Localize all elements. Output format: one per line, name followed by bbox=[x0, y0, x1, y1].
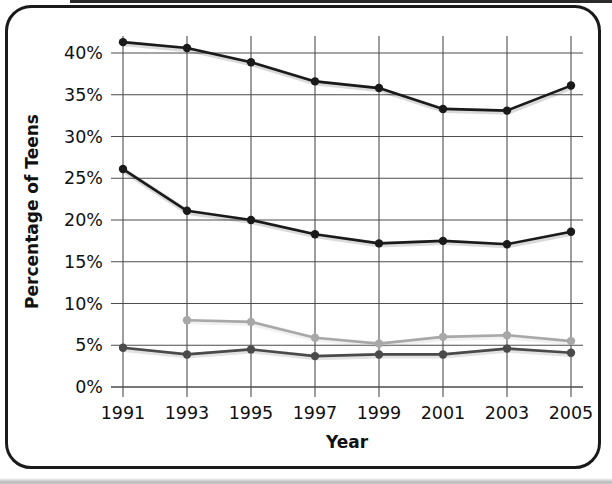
y-tick-label: 20% bbox=[64, 210, 103, 230]
series-marker bbox=[119, 344, 127, 352]
x-tick-label: 1997 bbox=[293, 403, 338, 423]
series-line-ghost bbox=[124, 44, 572, 113]
series-marker bbox=[503, 240, 511, 248]
series-marker bbox=[439, 350, 447, 358]
series-marker bbox=[567, 349, 575, 357]
x-tick-label: 2003 bbox=[485, 403, 530, 423]
series-marker bbox=[119, 38, 127, 46]
x-tick-label: 1999 bbox=[357, 403, 402, 423]
series-marker bbox=[183, 207, 191, 215]
series-marker bbox=[247, 58, 255, 66]
series-marker bbox=[183, 44, 191, 52]
series-line-ghost bbox=[124, 171, 572, 246]
x-tick-label: 1995 bbox=[229, 403, 274, 423]
series-marker bbox=[439, 333, 447, 341]
series-marker bbox=[119, 165, 127, 173]
x-tick-label: 2001 bbox=[421, 403, 466, 423]
series-marker bbox=[439, 105, 447, 113]
y-tick-label: 25% bbox=[64, 168, 103, 188]
series-marker bbox=[247, 345, 255, 353]
series-marker bbox=[503, 106, 511, 114]
chart-tick-labels: 0%5%10%15%20%25%30%35%40%199119931995199… bbox=[64, 43, 593, 423]
series-marker bbox=[311, 77, 319, 85]
y-tick-label: 10% bbox=[64, 294, 103, 314]
y-tick-label: 40% bbox=[64, 43, 103, 63]
series-marker bbox=[311, 352, 319, 360]
series-marker bbox=[375, 339, 383, 347]
series-marker bbox=[503, 344, 511, 352]
series-marker bbox=[183, 350, 191, 358]
x-tick-label: 1991 bbox=[101, 403, 146, 423]
series-marker bbox=[247, 216, 255, 224]
y-tick-label: 5% bbox=[75, 335, 103, 355]
series-marker bbox=[247, 318, 255, 326]
y-tick-label: 0% bbox=[75, 377, 103, 397]
y-tick-label: 30% bbox=[64, 127, 103, 147]
series-marker bbox=[311, 334, 319, 342]
series-marker bbox=[183, 316, 191, 324]
series-marker bbox=[375, 350, 383, 358]
series-line bbox=[123, 169, 571, 244]
series-marker bbox=[375, 84, 383, 92]
series-marker bbox=[375, 239, 383, 247]
series-marker bbox=[439, 237, 447, 245]
scan-edge-bottom bbox=[0, 478, 612, 484]
series-marker bbox=[567, 337, 575, 345]
series-marker bbox=[567, 81, 575, 89]
series-marker bbox=[311, 230, 319, 238]
x-tick-label: 1993 bbox=[165, 403, 210, 423]
series-marker bbox=[567, 227, 575, 235]
line-chart: 0%5%10%15%20%25%30%35%40%199119931995199… bbox=[0, 0, 612, 484]
y-tick-label: 35% bbox=[64, 85, 103, 105]
x-tick-label: 2005 bbox=[549, 403, 594, 423]
y-tick-label: 15% bbox=[64, 252, 103, 272]
series-marker bbox=[503, 331, 511, 339]
x-axis-title: Year bbox=[325, 432, 369, 452]
y-axis-title: Percentage of Teens bbox=[22, 114, 42, 309]
